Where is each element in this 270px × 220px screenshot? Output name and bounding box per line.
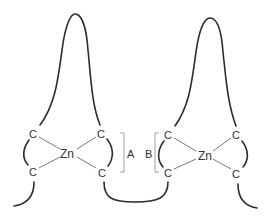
label-b: B <box>145 148 152 160</box>
bond <box>39 137 60 149</box>
ligand-c: C <box>29 166 37 178</box>
bond <box>174 159 196 169</box>
ligand-c: C <box>164 129 172 141</box>
ligand-c: C <box>29 128 37 140</box>
bond <box>213 159 231 169</box>
left-finger-right-arc <box>107 139 112 166</box>
zinc-finger-diagram: C C C C Zn C C C C Zn A B <box>0 0 270 220</box>
right-finger-loop <box>175 18 236 126</box>
left-tail <box>14 182 34 206</box>
bond <box>77 137 96 149</box>
zinc-atom: Zn <box>198 149 212 163</box>
ligand-c: C <box>232 129 240 141</box>
right-tail <box>238 184 257 208</box>
label-a: A <box>127 148 135 160</box>
linker <box>104 182 168 202</box>
ligand-c: C <box>97 128 105 140</box>
ligand-c: C <box>232 168 240 180</box>
ligand-c: C <box>98 167 106 179</box>
ligand-c: C <box>164 167 172 179</box>
right-finger-right-arc <box>242 141 247 167</box>
left-finger-loop <box>40 14 100 125</box>
left-finger-left-arc <box>24 140 29 165</box>
bond <box>39 157 60 168</box>
bond <box>213 138 231 151</box>
zinc-atom: Zn <box>60 147 74 161</box>
bracket-a <box>120 133 124 172</box>
bond <box>77 157 96 168</box>
right-finger-left-arc <box>159 141 164 167</box>
bond <box>174 138 196 151</box>
